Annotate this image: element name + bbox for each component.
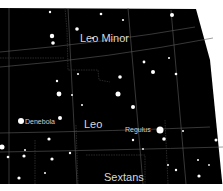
- star: [50, 157, 53, 160]
- star: [50, 34, 54, 38]
- star: [215, 139, 218, 142]
- star: [208, 164, 210, 166]
- star: [47, 137, 50, 140]
- star: [182, 130, 184, 132]
- star: [142, 148, 144, 150]
- star: [151, 70, 155, 74]
- bottom-margin: [0, 184, 223, 191]
- star: [132, 139, 134, 141]
- star: [143, 61, 146, 64]
- star: [197, 159, 199, 161]
- star: [175, 73, 178, 76]
- star-denebola[interactable]: [18, 118, 24, 124]
- star: [17, 176, 20, 179]
- constellation-label-sextans: Sextans: [104, 172, 144, 183]
- star: [57, 92, 62, 97]
- star: [175, 169, 177, 171]
- star: [75, 27, 79, 31]
- star: [58, 116, 62, 120]
- star: [197, 174, 200, 177]
- star: [122, 19, 124, 21]
- star: [69, 152, 71, 154]
- star: [167, 164, 169, 166]
- star: [51, 41, 55, 45]
- star: [7, 156, 10, 159]
- star: [71, 94, 73, 96]
- star: [100, 13, 103, 16]
- star: [116, 92, 121, 97]
- star: [162, 137, 166, 141]
- star-label-denebola: Denebola: [25, 118, 55, 125]
- constellation-label-leo-minor: Leo Minor: [80, 33, 129, 44]
- star: [170, 13, 174, 17]
- star-regulus[interactable]: [157, 127, 164, 134]
- star-label-regulus: Regulus: [125, 126, 151, 133]
- star: [56, 80, 58, 82]
- star: [168, 57, 170, 59]
- constellation-label-leo: Leo: [84, 119, 102, 130]
- star: [22, 154, 25, 157]
- star: [131, 105, 135, 109]
- star: [81, 104, 83, 106]
- star: [118, 75, 122, 79]
- star: [77, 73, 79, 75]
- star: [24, 149, 26, 151]
- star-map[interactable]: [0, 0, 223, 191]
- star: [44, 172, 46, 174]
- star: [49, 11, 51, 13]
